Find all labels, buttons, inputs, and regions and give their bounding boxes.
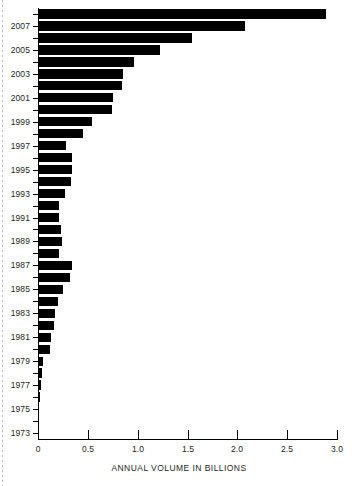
y-axis-tick bbox=[33, 74, 38, 75]
bar-row bbox=[38, 21, 337, 30]
y-axis-tick bbox=[33, 14, 38, 15]
bar-row bbox=[38, 81, 337, 90]
y-axis-tick bbox=[33, 122, 38, 123]
x-axis-tick-label: 0.5 bbox=[82, 444, 94, 454]
bar-row bbox=[38, 201, 337, 210]
y-axis-tick bbox=[33, 397, 38, 398]
bar bbox=[38, 201, 59, 210]
bar bbox=[38, 225, 61, 234]
bar-row bbox=[38, 309, 337, 318]
bar-row bbox=[38, 177, 337, 186]
bar-row bbox=[38, 93, 337, 102]
y-axis-tick-label: 1991 bbox=[0, 213, 30, 223]
bar-row bbox=[38, 9, 337, 18]
bar bbox=[38, 273, 70, 282]
x-axis-tick-label: 2.0 bbox=[231, 444, 243, 454]
y-axis-tick bbox=[33, 421, 38, 422]
bar bbox=[38, 69, 123, 78]
y-axis-tick bbox=[33, 206, 38, 207]
bar bbox=[38, 345, 50, 354]
y-axis-tick-label: 2001 bbox=[0, 93, 30, 103]
bar-row bbox=[38, 261, 337, 270]
bar-row bbox=[38, 105, 337, 114]
bar bbox=[38, 309, 55, 318]
bar bbox=[38, 165, 72, 174]
y-axis-tick bbox=[33, 86, 38, 87]
bar-row bbox=[38, 213, 337, 222]
bar-row bbox=[38, 297, 337, 306]
y-axis-tick-label: 1983 bbox=[0, 308, 30, 318]
bar bbox=[38, 249, 59, 258]
x-axis-tick bbox=[138, 430, 139, 439]
y-axis-tick-label: 1987 bbox=[0, 260, 30, 270]
bar-row bbox=[38, 380, 337, 389]
y-axis-tick-label: 1977 bbox=[0, 380, 30, 390]
bar bbox=[38, 297, 58, 306]
bar-row bbox=[38, 141, 337, 150]
y-axis-tick bbox=[33, 229, 38, 230]
bar bbox=[38, 81, 122, 90]
x-axis-title: ANNUAL VOLUME IN BILLIONS bbox=[0, 463, 358, 473]
x-axis-tick bbox=[188, 430, 189, 439]
x-axis-tick-label: 1.0 bbox=[132, 444, 144, 454]
x-axis-tick-label: 3.0 bbox=[331, 444, 343, 454]
bar-row bbox=[38, 189, 337, 198]
bar-row bbox=[38, 237, 337, 246]
x-axis-line bbox=[38, 439, 338, 440]
y-axis-tick bbox=[33, 289, 38, 290]
y-axis-tick bbox=[33, 26, 38, 27]
bar bbox=[38, 129, 83, 138]
bar-row bbox=[38, 225, 337, 234]
y-axis-tick bbox=[33, 170, 38, 171]
bar bbox=[38, 45, 160, 54]
y-axis-tick bbox=[33, 241, 38, 242]
x-axis-tick-label: 0 bbox=[36, 444, 41, 454]
y-axis-tick-label: 1995 bbox=[0, 165, 30, 175]
bar-row bbox=[38, 69, 337, 78]
bar bbox=[38, 153, 72, 162]
bar bbox=[38, 357, 43, 366]
y-axis-tick bbox=[33, 325, 38, 326]
y-axis-tick bbox=[33, 218, 38, 219]
bar-row bbox=[38, 165, 337, 174]
y-axis-tick bbox=[33, 50, 38, 51]
bar bbox=[38, 261, 72, 270]
bar-row bbox=[38, 117, 337, 126]
y-axis-tick-label: 1975 bbox=[0, 404, 30, 414]
x-axis-tick bbox=[287, 430, 288, 439]
bar bbox=[38, 380, 41, 389]
bar-series bbox=[38, 8, 337, 439]
y-axis-tick-label: 1989 bbox=[0, 236, 30, 246]
bar-row bbox=[38, 321, 337, 330]
y-axis-tick bbox=[33, 433, 38, 434]
y-axis-tick-label: 2005 bbox=[0, 45, 30, 55]
y-axis-tick bbox=[33, 98, 38, 99]
y-axis-tick bbox=[33, 38, 38, 39]
bar-row bbox=[38, 153, 337, 162]
plot-area bbox=[38, 8, 337, 439]
bar bbox=[38, 117, 92, 126]
bar-row bbox=[38, 416, 337, 425]
y-axis-tick bbox=[33, 301, 38, 302]
x-axis-tick bbox=[88, 430, 89, 439]
bar-row bbox=[38, 285, 337, 294]
bar bbox=[38, 321, 54, 330]
y-axis-tick bbox=[33, 158, 38, 159]
y-axis-tick bbox=[33, 313, 38, 314]
y-axis-tick-label: 2007 bbox=[0, 21, 30, 31]
bar bbox=[38, 93, 113, 102]
bar-row bbox=[38, 357, 337, 366]
bar bbox=[38, 9, 326, 18]
x-axis-tick bbox=[237, 430, 238, 439]
bar bbox=[38, 428, 39, 437]
bar-row bbox=[38, 57, 337, 66]
y-axis-tick-label: 2003 bbox=[0, 69, 30, 79]
y-axis-tick bbox=[33, 194, 38, 195]
bar-row bbox=[38, 345, 337, 354]
x-axis-tick-label: 1.5 bbox=[182, 444, 194, 454]
bar bbox=[38, 416, 39, 425]
y-axis-tick bbox=[33, 349, 38, 350]
y-axis-tick-label: 1973 bbox=[0, 428, 30, 438]
y-axis-tick-label: 1985 bbox=[0, 284, 30, 294]
bar-row bbox=[38, 404, 337, 413]
